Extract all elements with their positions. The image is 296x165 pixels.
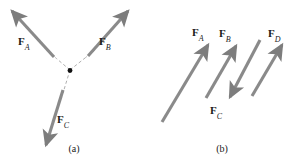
panel-a: FA FB FC (a) <box>0 0 148 165</box>
vector-label-FC-base: F <box>57 113 64 125</box>
vector-label-FC: FC <box>57 114 69 128</box>
vector-label-FC-subscript: C <box>64 121 69 130</box>
vector-label-FD-base: F <box>268 27 275 39</box>
panel-b: FA FB FD FC (b) <box>148 0 296 165</box>
concurrency-vertex-dot <box>68 68 73 73</box>
vector-label-FB: FB <box>99 36 111 50</box>
vector-label-FA-subscript: A <box>199 34 204 43</box>
vector-label-FB: FB <box>219 28 231 42</box>
vector-arrow-FB <box>206 46 236 98</box>
dashed-line-to-FA <box>57 59 70 70</box>
vector-label-FD: FD <box>268 28 281 42</box>
vector-label-FB-base: F <box>99 35 106 47</box>
vector-label-FA-subscript: A <box>25 43 30 52</box>
vector-arrow-FD <box>252 45 282 96</box>
panel-a-caption: (a) <box>0 144 148 154</box>
vector-label-FB-subscript: B <box>106 43 111 52</box>
vector-label-FA: FA <box>18 36 30 50</box>
panel-b-vector-graphic <box>148 0 296 165</box>
vector-arrow-FA <box>162 45 208 122</box>
dashed-line-to-FB <box>70 58 85 70</box>
vector-label-FA-base: F <box>192 26 199 38</box>
dashed-line-to-FC <box>63 70 70 93</box>
panel-b-caption: (b) <box>148 144 296 154</box>
vector-label-FB-base: F <box>219 27 226 39</box>
vector-label-FA: FA <box>192 27 204 41</box>
vector-label-FD-subscript: D <box>275 35 281 44</box>
vector-label-FC-base: F <box>210 104 217 116</box>
vector-label-FC-subscript: C <box>217 112 222 121</box>
force-vector-figure: FA FB FC (a) FA <box>0 0 296 165</box>
vector-label-FB-subscript: B <box>226 35 231 44</box>
vector-label-FA-base: F <box>18 35 25 47</box>
vector-label-FC: FC <box>210 105 222 119</box>
panel-a-vector-graphic <box>0 0 148 165</box>
